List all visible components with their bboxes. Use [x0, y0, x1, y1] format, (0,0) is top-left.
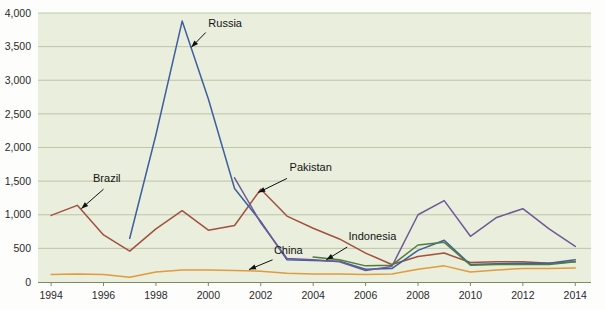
y-tick-label-2000: 2,000: [5, 141, 31, 153]
y-tick-label-4000: 4,000: [5, 7, 31, 19]
x-tick-label-1998: 1998: [144, 289, 168, 301]
y-tick-label-1500: 1,500: [5, 175, 31, 187]
y-tick-label-3000: 3,000: [5, 74, 31, 86]
y-axis-tick-labels: 05001,0001,5002,0002,5003,0003,5004,000: [5, 7, 31, 288]
x-tick-label-2002: 2002: [249, 289, 273, 301]
y-tick-label-1000: 1,000: [5, 208, 31, 220]
y-tick-label-3500: 3,500: [5, 40, 31, 52]
y-tick-label-2500: 2,500: [5, 108, 31, 120]
y-tick-label-500: 500: [13, 242, 31, 254]
series-label-china: China: [274, 244, 304, 256]
y-tick-label-0: 0: [25, 276, 31, 288]
x-tick-label-1996: 1996: [92, 289, 116, 301]
x-tick-label-2004: 2004: [302, 289, 326, 301]
x-tick-label-2014: 2014: [564, 289, 588, 301]
x-tick-label-2000: 2000: [197, 289, 221, 301]
series-label-brazil: Brazil: [93, 172, 121, 184]
x-tick-label-1994: 1994: [39, 289, 63, 301]
line-chart: 05001,0001,5002,0002,5003,0003,5004,000 …: [0, 0, 605, 310]
x-axis-tick-labels: 1994199619982000200220042006200820102012…: [39, 282, 587, 301]
x-tick-label-2012: 2012: [511, 289, 535, 301]
chart-container: 05001,0001,5002,0002,5003,0003,5004,000 …: [0, 0, 605, 310]
x-tick-label-2010: 2010: [459, 289, 483, 301]
x-tick-label-2006: 2006: [354, 289, 378, 301]
series-label-pakistan: Pakistan: [290, 161, 332, 173]
x-tick-label-2008: 2008: [406, 289, 430, 301]
series-label-indonesia: Indonesia: [349, 230, 398, 242]
series-label-russia: Russia: [208, 17, 243, 29]
